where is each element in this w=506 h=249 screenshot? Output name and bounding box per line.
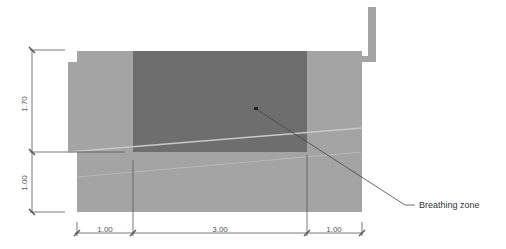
dim-vertical-1: 1.70 (20, 96, 29, 112)
dim-horizontal-2: 3.00 (212, 225, 228, 234)
breathing-zone (133, 51, 307, 152)
annotation-breathing-zone: Breathing zone (419, 200, 480, 210)
leader-arrowhead-icon (254, 107, 258, 110)
vent-pipe (368, 7, 376, 62)
section-diagram: 1.70 1.00 1.00 3.00 1.00 Breathing zone (0, 0, 506, 249)
dim-horizontal-1: 1.00 (97, 225, 113, 234)
dim-vertical-2: 1.00 (20, 175, 29, 191)
room-section (68, 7, 376, 212)
dim-horizontal-3: 1.00 (326, 225, 342, 234)
